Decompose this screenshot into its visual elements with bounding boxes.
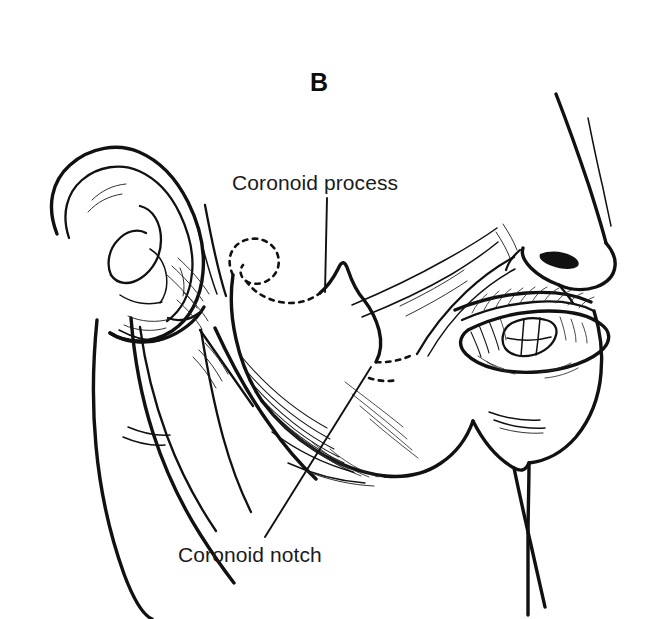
anterior-neck-border bbox=[528, 463, 529, 615]
panel-letter-b: B bbox=[310, 70, 328, 95]
label-coronoid-notch: Coronoid notch bbox=[178, 544, 322, 565]
label-coronoid-process: Coronoid process bbox=[232, 172, 398, 193]
anatomical-figure: B Coronoid process Coronoid notch bbox=[0, 0, 650, 619]
